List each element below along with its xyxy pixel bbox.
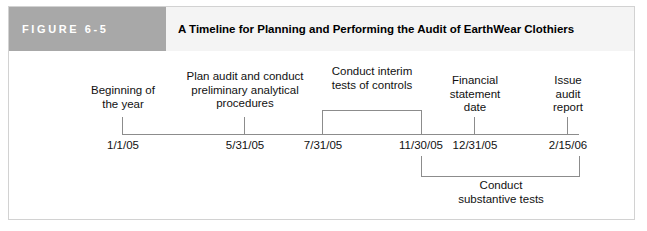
bracket-conduct-interim-tests xyxy=(323,111,422,135)
figure-card: FIGURE 6-5 A Timeline for Planning and P… xyxy=(8,6,635,220)
caption-conduct-substantive-tests: Conduct substantive tests xyxy=(434,179,568,206)
figure-header: FIGURE 6-5 A Timeline for Planning and P… xyxy=(9,7,634,51)
label-financial-statement-date: Financial statement date xyxy=(428,74,522,115)
label-beginning-of-year: Beginning of the year xyxy=(67,84,179,111)
timeline-diagram: Beginning of the year Plan audit and con… xyxy=(9,51,634,219)
date-interim-start: 7/31/05 xyxy=(290,139,356,152)
date-issue-audit-report: 2/15/06 xyxy=(534,139,602,152)
figure-title-block: A Timeline for Planning and Performing t… xyxy=(166,7,634,51)
figure-number-block: FIGURE 6-5 xyxy=(9,7,166,51)
label-plan-audit: Plan audit and conduct preliminary analy… xyxy=(165,70,325,111)
bracket-conduct-substantive-tests xyxy=(422,156,580,177)
label-issue-audit-report: Issue audit report xyxy=(529,74,607,115)
date-financial-statement-date: 12/31/05 xyxy=(441,139,509,152)
figure-number-label: FIGURE 6-5 xyxy=(9,23,109,35)
caption-conduct-interim-tests: Conduct interim tests of controls xyxy=(312,65,432,92)
date-beginning-of-year: 1/1/05 xyxy=(92,139,154,152)
date-plan-audit: 5/31/05 xyxy=(212,139,278,152)
figure-title: A Timeline for Planning and Performing t… xyxy=(166,22,590,37)
